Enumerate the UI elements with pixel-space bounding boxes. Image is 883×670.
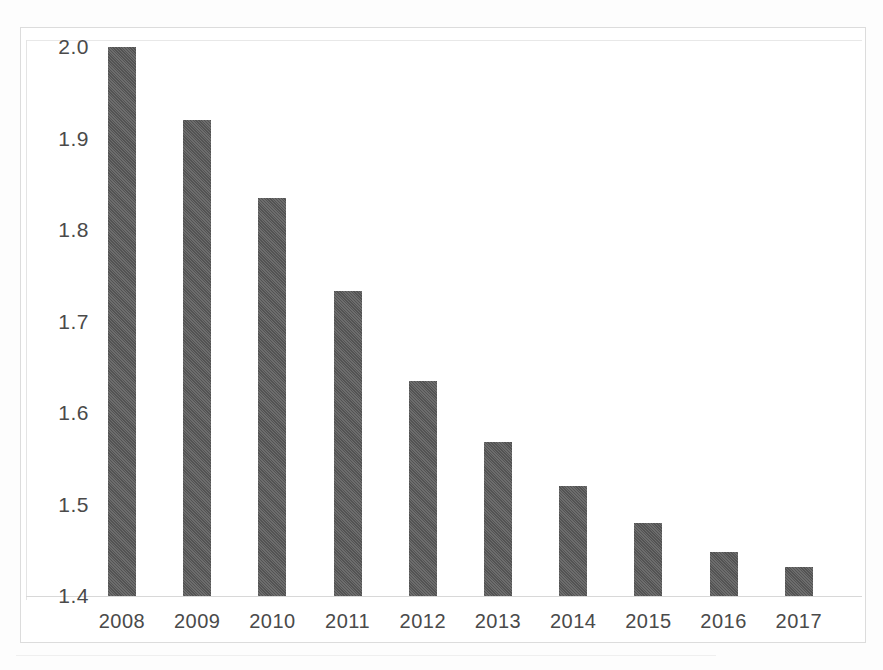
x-axis-tick-labels: 2008200920102011201220132014201520162017 [21,610,867,650]
bar-series [21,28,867,644]
x-axis-tick-label: 2016 [684,610,764,633]
bar-2009 [183,120,211,596]
scanned-page: 1.41.51.61.71.81.92.0 200820092010201120… [0,0,883,670]
bar-2008 [108,47,136,596]
plot-area: 1.41.51.61.71.81.92.0 200820092010201120… [21,28,867,644]
bar-2014 [559,486,587,596]
x-axis-tick-label: 2010 [232,610,312,633]
x-axis-tick-label: 2008 [82,610,162,633]
bar-2011 [334,291,362,596]
chart-frame: 1.41.51.61.71.81.92.0 200820092010201120… [20,27,866,643]
bar-2017 [785,567,813,596]
bar-2016 [710,552,738,596]
x-axis-tick-label: 2014 [533,610,613,633]
bar-2010 [258,198,286,596]
bar-2013 [484,442,512,596]
x-axis-tick-label: 2017 [759,610,839,633]
x-axis-tick-label: 2009 [157,610,237,633]
x-axis-tick-label: 2013 [458,610,538,633]
bar-2015 [634,523,662,596]
x-axis-tick-label: 2011 [308,610,388,633]
bar-2012 [409,381,437,596]
scan-artifact-line [16,655,716,656]
x-axis-tick-label: 2012 [383,610,463,633]
x-axis-tick-label: 2015 [608,610,688,633]
